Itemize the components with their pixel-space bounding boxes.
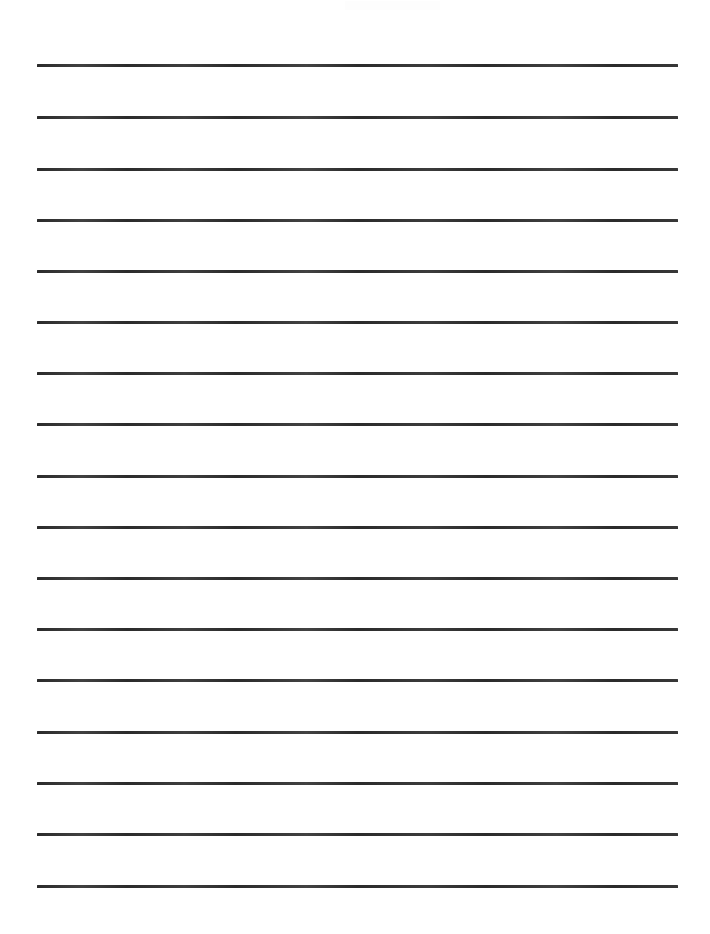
writing-row[interactable]	[37, 171, 678, 219]
writing-row[interactable]	[37, 222, 678, 270]
writing-row[interactable]	[37, 785, 678, 833]
writing-row[interactable]	[37, 734, 678, 782]
writing-row[interactable]	[37, 119, 678, 168]
writing-row[interactable]	[37, 273, 678, 321]
writing-row[interactable]	[37, 529, 678, 577]
page-bottom-margin	[0, 890, 710, 934]
lined-paper-page	[0, 0, 710, 934]
writing-row[interactable]	[37, 324, 678, 372]
writing-row[interactable]	[37, 580, 678, 628]
writing-row[interactable]	[37, 682, 678, 731]
writing-row[interactable]	[37, 478, 678, 526]
writing-row[interactable]	[37, 426, 678, 475]
writing-row[interactable]	[37, 631, 678, 679]
writing-row[interactable]	[37, 16, 678, 64]
writing-row[interactable]	[37, 67, 678, 116]
ruled-line-17	[37, 885, 678, 888]
ruled-lines-layer	[0, 0, 710, 934]
writing-row[interactable]	[37, 375, 678, 423]
writing-row[interactable]	[37, 836, 678, 885]
